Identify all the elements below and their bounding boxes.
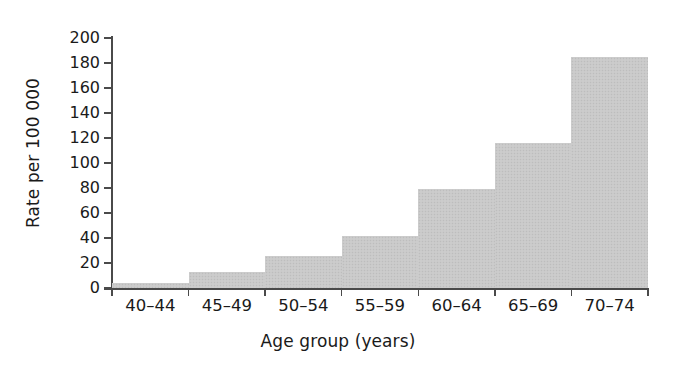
bar-60-64: [418, 189, 495, 288]
y-tick-mark: [104, 37, 112, 38]
y-tick-mark: [104, 62, 112, 63]
bar-55-59: [342, 236, 419, 289]
y-tick-mark: [104, 112, 112, 113]
bar-50-54: [265, 256, 342, 289]
y-tick-label: 180: [55, 55, 100, 71]
bar-chart-figure: Rate per 100 000 20018016014012010080604…: [0, 0, 676, 376]
plot-area: [112, 38, 648, 288]
x-tick-label: 60–64: [418, 296, 495, 316]
y-tick-label: 40: [55, 230, 100, 246]
y-tick-label: 100: [55, 155, 100, 171]
x-tick-mark: [418, 288, 419, 296]
x-tick-mark: [571, 288, 572, 296]
y-tick-label: 200: [55, 30, 100, 46]
bar-40-44: [112, 283, 189, 288]
x-axis-line: [104, 288, 649, 290]
y-tick-label: 80: [55, 180, 100, 196]
y-tick-mark: [104, 237, 112, 238]
y-tick-label: 140: [55, 105, 100, 121]
bar-65-69: [495, 143, 572, 288]
x-tick-label: 40–44: [112, 296, 189, 316]
y-tick-mark: [104, 87, 112, 88]
x-tick-label: 70–74: [571, 296, 648, 316]
bar-70-74: [571, 57, 648, 288]
x-axis-title: Age group (years): [0, 330, 676, 352]
x-tick-mark: [341, 288, 342, 296]
x-tick-label: 65–69: [495, 296, 572, 316]
x-tick-mark: [188, 288, 189, 296]
y-tick-label: 0: [55, 280, 100, 296]
x-tick-mark: [494, 288, 495, 296]
x-tick-label: 50–54: [265, 296, 342, 316]
y-tick-label: 60: [55, 205, 100, 221]
y-tick-label: 20: [55, 255, 100, 271]
y-tick-label: 160: [55, 80, 100, 96]
y-tick-mark: [104, 212, 112, 213]
y-tick-mark: [104, 162, 112, 163]
x-tick-label: 55–59: [342, 296, 419, 316]
y-tick-mark: [104, 187, 112, 188]
y-tick-mark: [104, 262, 112, 263]
y-tick-label: 120: [55, 130, 100, 146]
x-tick-label: 45–49: [189, 296, 266, 316]
y-axis-title: Rate per 100 000: [22, 18, 44, 288]
x-tick-mark: [111, 288, 112, 296]
bar-45-49: [189, 272, 266, 288]
y-tick-mark: [104, 137, 112, 138]
x-tick-mark: [647, 288, 648, 296]
x-tick-mark: [264, 288, 265, 296]
